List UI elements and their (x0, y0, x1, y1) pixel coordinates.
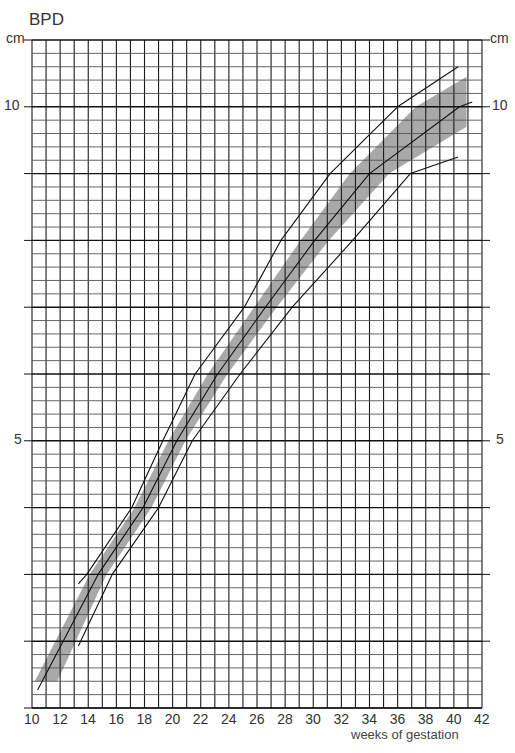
y-unit-label-right: cm (490, 30, 509, 46)
x-tick-label: 22 (193, 711, 209, 727)
x-tick-label: 24 (221, 711, 237, 727)
x-tick-label: 28 (277, 711, 293, 727)
y-tick-label-10-left: 10 (4, 97, 20, 113)
x-tick-label: 12 (52, 711, 68, 727)
normal-range-band (35, 77, 467, 682)
x-tick-label: 14 (80, 711, 96, 727)
x-tick-label: 34 (362, 711, 378, 727)
chart-title: BPD (29, 10, 64, 30)
x-axis-label: weeks of gestation (351, 727, 459, 742)
x-tick-label: 30 (305, 711, 321, 727)
x-tick-label: 40 (446, 711, 462, 727)
bpd-growth-chart (0, 0, 515, 753)
x-tick-label: 26 (249, 711, 265, 727)
x-tick-label: 16 (108, 711, 124, 727)
y-tick-label-5-right: 5 (496, 431, 504, 447)
y-unit-label-left: cm (6, 30, 25, 46)
y-tick-label-10-right: 10 (492, 97, 508, 113)
y-tick-label-5-left: 5 (14, 431, 22, 447)
x-tick-label: 20 (165, 711, 181, 727)
x-tick-label: 36 (390, 711, 406, 727)
x-tick-label: 10 (24, 711, 40, 727)
x-tick-label: 38 (418, 711, 434, 727)
x-tick-label: 32 (333, 711, 349, 727)
x-tick-label: 42 (474, 711, 490, 727)
x-tick-label: 18 (137, 711, 153, 727)
